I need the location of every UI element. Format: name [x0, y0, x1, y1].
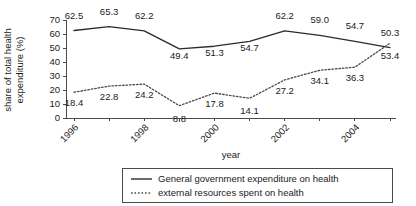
y-tick-label: 30: [49, 70, 60, 81]
data-point-label: 36.3: [346, 72, 365, 83]
y-axis-title-line2: expenditure (%): [14, 36, 25, 103]
y-tick-label: 60: [49, 28, 60, 39]
data-point-label: 54.7: [240, 42, 259, 53]
data-point-label: 53.4: [381, 50, 400, 61]
data-point-label: 49.4: [170, 50, 189, 61]
y-tick-label: 70: [49, 14, 60, 25]
data-point-label: 62.2: [275, 10, 294, 21]
data-point-label: 27.2: [275, 85, 294, 96]
series-line-general-government-expenditure: [74, 27, 390, 49]
x-tick-label: 1996: [58, 122, 81, 145]
y-tick-label: 0: [55, 112, 60, 123]
data-point-label: 8.8: [173, 113, 186, 124]
chart-legend: General government expenditure on health…: [122, 168, 392, 202]
data-point-label: 18.4: [65, 97, 84, 108]
x-axis-ticks: 19961998200020022004: [58, 118, 390, 144]
x-tick-label: 2000: [198, 122, 221, 145]
data-point-label: 34.1: [311, 75, 330, 86]
legend-label-general-government-expenditure: General government expenditure on health: [158, 173, 339, 184]
data-point-label: 65.3: [100, 6, 119, 17]
data-point-label: 24.2: [135, 89, 154, 100]
y-axis-title: share of total health expenditure (%): [2, 28, 25, 111]
data-point-label: 62.5: [65, 10, 84, 21]
data-point-label: 54.7: [346, 20, 365, 31]
series-labels-general-government-expenditure: 62.565.362.249.451.354.762.259.054.750.3: [65, 6, 400, 61]
data-point-label: 17.8: [205, 98, 224, 109]
y-tick-label: 40: [49, 56, 60, 67]
x-tick-label: 1998: [128, 122, 151, 145]
y-tick-label: 20: [49, 84, 60, 95]
y-tick-label: 10: [49, 98, 60, 109]
x-axis-title: year: [222, 149, 240, 160]
data-point-label: 59.0: [311, 14, 330, 25]
y-axis-ticks: 010203040506070: [49, 14, 66, 123]
data-point-label: 51.3: [205, 47, 224, 58]
series-line-external-resources: [74, 43, 390, 105]
chart-canvas: share of total health expenditure (%) 01…: [0, 0, 416, 206]
x-tick-label: 2004: [339, 122, 362, 145]
legend-label-external-resources: external resources spent on health: [158, 187, 304, 198]
data-point-label: 14.1: [240, 105, 259, 116]
data-point-label: 22.8: [100, 91, 119, 102]
line-chart: share of total health expenditure (%) 01…: [0, 0, 416, 206]
data-point-label: 62.2: [135, 10, 154, 21]
x-tick-label: 2002: [268, 122, 291, 145]
y-tick-label: 50: [49, 42, 60, 53]
data-point-label: 50.3: [381, 27, 400, 38]
series-labels-external-resources: 18.422.824.28.817.814.127.234.136.353.4: [65, 50, 400, 123]
y-axis-title-line1: share of total health: [2, 28, 13, 111]
